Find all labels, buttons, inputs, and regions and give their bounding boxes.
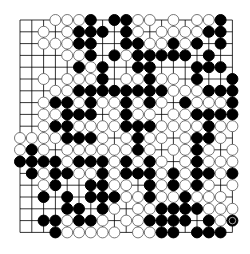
white-stone: [62, 50, 73, 61]
white-stone: [144, 203, 155, 214]
white-stone: [97, 144, 108, 155]
white-stone: [62, 26, 73, 37]
white-stone: [38, 26, 49, 37]
white-stone: [38, 109, 49, 120]
black-stone: [85, 50, 96, 61]
black-stone: [215, 15, 226, 26]
black-stone: [50, 97, 61, 108]
black-stone: [85, 215, 96, 226]
white-stone: [133, 203, 144, 214]
go-board[interactable]: [0, 0, 250, 254]
white-stone: [133, 26, 144, 37]
white-stone: [180, 156, 191, 167]
white-stone: [62, 215, 73, 226]
black-stone: [168, 50, 179, 61]
white-stone: [180, 133, 191, 144]
white-stone: [133, 15, 144, 26]
white-stone: [109, 97, 120, 108]
white-stone: [121, 215, 132, 226]
white-stone: [50, 85, 61, 96]
black-stone: [192, 74, 203, 85]
white-stone: [38, 144, 49, 155]
black-stone: [168, 227, 179, 238]
white-stone: [109, 227, 120, 238]
black-stone: [192, 156, 203, 167]
white-stone: [74, 97, 85, 108]
white-stone: [203, 97, 214, 108]
white-stone: [227, 203, 238, 214]
black-stone: [74, 62, 85, 73]
black-stone: [156, 215, 167, 226]
white-stone: [109, 180, 120, 191]
white-stone: [227, 180, 238, 191]
white-stone: [85, 144, 96, 155]
black-stone: [168, 215, 179, 226]
white-stone: [133, 156, 144, 167]
black-stone: [85, 109, 96, 120]
black-stone: [121, 97, 132, 108]
white-stone: [97, 97, 108, 108]
white-stone: [62, 156, 73, 167]
white-stone: [15, 144, 26, 155]
white-stone: [156, 192, 167, 203]
white-stone: [74, 144, 85, 155]
white-stone: [203, 156, 214, 167]
white-stone: [215, 121, 226, 132]
black-stone: [74, 26, 85, 37]
black-stone: [227, 215, 238, 226]
black-stone: [227, 109, 238, 120]
black-stone: [133, 38, 144, 49]
white-stone: [85, 168, 96, 179]
black-stone: [85, 192, 96, 203]
white-stone: [156, 156, 167, 167]
white-stone: [144, 109, 155, 120]
white-stone: [144, 144, 155, 155]
white-stone: [180, 85, 191, 96]
black-stone: [144, 85, 155, 96]
white-stone: [109, 168, 120, 179]
black-stone: [50, 121, 61, 132]
white-stone: [144, 133, 155, 144]
white-stone: [109, 144, 120, 155]
white-stone: [97, 121, 108, 132]
white-stone: [50, 15, 61, 26]
white-stone: [133, 74, 144, 85]
white-stone: [74, 74, 85, 85]
black-stone: [62, 97, 73, 108]
black-stone: [215, 109, 226, 120]
white-stone: [168, 15, 179, 26]
black-stone: [203, 227, 214, 238]
white-stone: [85, 121, 96, 132]
white-stone: [62, 144, 73, 155]
black-stone: [97, 156, 108, 167]
white-stone: [144, 38, 155, 49]
white-stone: [50, 109, 61, 120]
white-stone: [97, 215, 108, 226]
black-stone: [133, 168, 144, 179]
black-stone: [144, 97, 155, 108]
white-stone: [97, 227, 108, 238]
white-stone: [109, 203, 120, 214]
white-stone: [38, 74, 49, 85]
black-stone: [144, 156, 155, 167]
white-stone: [133, 215, 144, 226]
black-stone: [144, 74, 155, 85]
black-stone: [133, 144, 144, 155]
black-stone: [227, 74, 238, 85]
black-stone: [215, 26, 226, 37]
black-stone: [121, 26, 132, 37]
black-stone: [85, 180, 96, 191]
white-stone: [215, 168, 226, 179]
white-stone: [121, 74, 132, 85]
white-stone: [121, 144, 132, 155]
white-stone: [133, 109, 144, 120]
black-stone: [133, 50, 144, 61]
white-stone: [215, 156, 226, 167]
white-stone: [26, 133, 37, 144]
black-stone: [168, 180, 179, 191]
black-stone: [215, 62, 226, 73]
black-stone: [50, 168, 61, 179]
black-stone: [133, 62, 144, 73]
black-stone: [227, 85, 238, 96]
white-stone: [109, 109, 120, 120]
